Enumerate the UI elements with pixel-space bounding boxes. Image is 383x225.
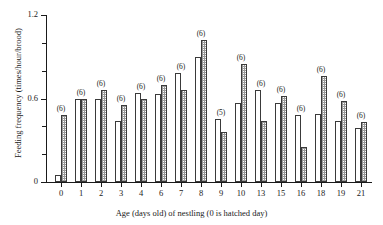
bar-open-day-21: [355, 128, 361, 182]
bar-open-day-8: [195, 57, 201, 182]
bar-hatched-day-9: [221, 132, 227, 182]
x-axis-tick-label-day-8: 8: [191, 188, 211, 198]
y-axis-major-tick: [41, 182, 46, 183]
bar-hatched-day-10: [241, 64, 247, 182]
bar-open-day-10: [235, 103, 241, 182]
x-axis-tick-label-day-3: 3: [111, 188, 131, 198]
bar-hatched-day-18: [321, 76, 327, 182]
x-axis-tick-label-day-6: 6: [151, 188, 171, 198]
x-axis-tick-label-day-21: 21: [351, 188, 371, 198]
x-axis-tick-day-19: [341, 183, 342, 187]
bar-hatched-day-15: [281, 96, 287, 182]
x-axis-tick-day-4: [141, 183, 142, 187]
bar-hatched-day-6: [161, 85, 167, 182]
x-axis-tick-day-1: [81, 183, 82, 187]
x-axis-tick-label-day-19: 19: [331, 188, 351, 198]
sample-size-label-day-15: (6): [269, 85, 293, 94]
x-axis-tick-label-day-9: 9: [211, 188, 231, 198]
bar-hatched-day-3: [121, 105, 127, 182]
sample-size-label-day-7: (6): [169, 62, 193, 71]
bar-hatched-day-4: [141, 99, 147, 183]
x-axis-title: Age (days old) of nestling (0 is hatched…: [0, 208, 383, 218]
x-axis-tick-label-day-10: 10: [231, 188, 251, 198]
sample-size-label-day-16: (6): [289, 104, 313, 113]
bar-hatched-day-13: [261, 121, 267, 182]
sample-size-label-day-6: (6): [149, 74, 173, 83]
bar-hatched-day-19: [341, 101, 347, 182]
x-axis-tick-day-21: [361, 183, 362, 187]
x-axis-tick-day-8: [201, 183, 202, 187]
x-axis-tick-label-day-16: 16: [291, 188, 311, 198]
sample-size-label-day-0: (6): [49, 104, 73, 113]
x-axis-line: [46, 182, 372, 183]
bar-open-day-13: [255, 90, 261, 182]
x-axis-tick-day-3: [121, 183, 122, 187]
bar-open-day-3: [115, 121, 121, 182]
sample-size-label-day-3: (6): [109, 94, 133, 103]
sample-size-label-day-18: (6): [309, 65, 333, 74]
bar-hatched-day-2: [101, 90, 107, 182]
y-axis-major-tick: [41, 99, 46, 100]
sample-size-label-day-19: (6): [329, 90, 353, 99]
bar-open-day-18: [315, 114, 321, 182]
x-axis-tick-day-6: [161, 183, 162, 187]
y-axis-major-tick: [41, 15, 46, 16]
sample-size-label-day-8: (6): [189, 29, 213, 38]
bar-open-day-7: [175, 73, 181, 182]
x-axis-tick-label-day-0: 0: [51, 188, 71, 198]
x-axis-tick-label-day-4: 4: [131, 188, 151, 198]
y-axis-line: [46, 15, 47, 183]
x-axis-tick-day-18: [321, 183, 322, 187]
x-axis-tick-label-day-2: 2: [91, 188, 111, 198]
bar-open-day-16: [295, 115, 301, 182]
x-axis-tick-label-day-1: 1: [71, 188, 91, 198]
bar-hatched-day-21: [361, 122, 367, 182]
x-axis-tick-label-day-15: 15: [271, 188, 291, 198]
x-axis-tick-day-7: [181, 183, 182, 187]
y-axis-tick-label: 0: [12, 176, 38, 186]
y-axis-tick-label: 1.2: [12, 9, 38, 19]
y-axis-minor-tick: [42, 126, 46, 127]
sample-size-label-day-1: (6): [69, 88, 93, 97]
x-axis-tick-day-16: [301, 183, 302, 187]
y-axis-minor-tick: [42, 43, 46, 44]
x-axis-tick-day-0: [61, 183, 62, 187]
bar-open-day-15: [275, 103, 281, 182]
x-axis-tick-label-day-18: 18: [311, 188, 331, 198]
sample-size-label-day-9: (5): [209, 108, 233, 117]
chart-figure: Feeding frequency (times/hour/brood) Age…: [0, 0, 383, 225]
sample-size-label-day-10: (6): [229, 53, 253, 62]
bar-open-day-0: [55, 175, 61, 182]
bar-open-day-2: [95, 99, 101, 183]
bar-hatched-day-1: [81, 99, 87, 183]
x-axis-tick-day-13: [261, 183, 262, 187]
sample-size-label-day-21: (6): [349, 111, 373, 120]
y-axis-minor-tick: [42, 71, 46, 72]
bar-hatched-day-8: [201, 40, 207, 182]
bar-open-day-6: [155, 94, 161, 182]
bar-open-day-1: [75, 99, 81, 183]
y-axis-tick-label: 0.6: [12, 93, 38, 103]
bar-hatched-day-0: [61, 115, 67, 182]
x-axis-tick-day-9: [221, 183, 222, 187]
x-axis-tick-day-2: [101, 183, 102, 187]
bar-open-day-4: [135, 93, 141, 182]
x-axis-tick-day-10: [241, 183, 242, 187]
bar-open-day-9: [215, 119, 221, 182]
y-axis-minor-tick: [42, 154, 46, 155]
x-axis-tick-label-day-13: 13: [251, 188, 271, 198]
x-axis-tick-label-day-7: 7: [171, 188, 191, 198]
bar-hatched-day-7: [181, 90, 187, 182]
x-axis-tick-day-15: [281, 183, 282, 187]
sample-size-label-day-4: (6): [129, 82, 153, 91]
bar-open-day-19: [335, 121, 341, 182]
bar-hatched-day-16: [301, 147, 307, 182]
sample-size-label-day-2: (6): [89, 79, 113, 88]
